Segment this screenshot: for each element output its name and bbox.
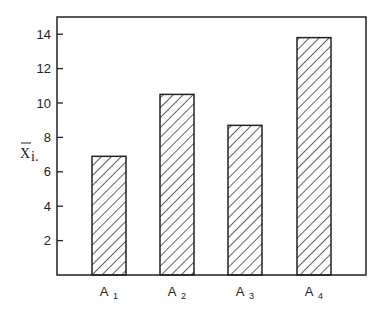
category-label: A (305, 284, 314, 299)
y-tick-label: 4 (44, 199, 51, 214)
category-label: A (168, 284, 177, 299)
y-axis-ticks: 2468101214 (37, 27, 63, 248)
svg-text:i.: i. (31, 149, 38, 164)
y-tick-label: 2 (44, 233, 51, 248)
y-tick-label: 10 (37, 96, 51, 111)
category-label: A (100, 284, 109, 299)
bar-a4 (297, 38, 331, 275)
category-label-subscript: 2 (181, 291, 186, 301)
y-axis-label: X i. (20, 143, 38, 164)
category-label: A (236, 284, 245, 299)
x-axis-labels: A1A2A3A4 (100, 284, 323, 301)
y-tick-label: 14 (37, 27, 51, 42)
svg-text:X: X (20, 146, 30, 161)
y-tick-label: 6 (44, 164, 51, 179)
y-tick-label: 12 (37, 61, 51, 76)
bar-a1 (92, 156, 126, 275)
category-label-subscript: 3 (249, 291, 254, 301)
bar-chart: 2468101214 A1A2A3A4 X i. (0, 0, 384, 309)
bar-a2 (160, 94, 194, 275)
bars (92, 38, 331, 275)
bar-a3 (228, 125, 262, 275)
y-tick-label: 8 (44, 130, 51, 145)
category-label-subscript: 4 (318, 291, 323, 301)
category-label-subscript: 1 (113, 291, 118, 301)
